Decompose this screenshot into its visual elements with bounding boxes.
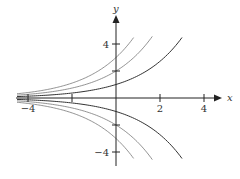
x-tick-label: −4 <box>21 103 36 114</box>
y-tick-label: −4 <box>94 147 109 158</box>
x-axis-label: x <box>227 92 233 103</box>
x-tick-label: 4 <box>201 103 207 114</box>
x-axis-arrow-icon <box>214 95 222 102</box>
y-axis-arrow-icon <box>113 15 120 23</box>
y-tick-label: 4 <box>103 39 109 50</box>
solution-curve <box>17 36 152 95</box>
axes: −4244−4 <box>16 15 222 166</box>
direction-field-plot: −4244−4 x y <box>0 0 240 179</box>
solution-curve <box>17 101 152 160</box>
solution-curve <box>17 38 182 97</box>
y-axis-label: y <box>112 3 119 14</box>
x-tick-label: 2 <box>157 103 163 114</box>
